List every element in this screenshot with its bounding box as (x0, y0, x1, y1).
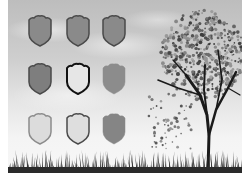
scene (8, 0, 242, 173)
tree-leaves (148, 9, 242, 150)
grass (8, 145, 242, 173)
